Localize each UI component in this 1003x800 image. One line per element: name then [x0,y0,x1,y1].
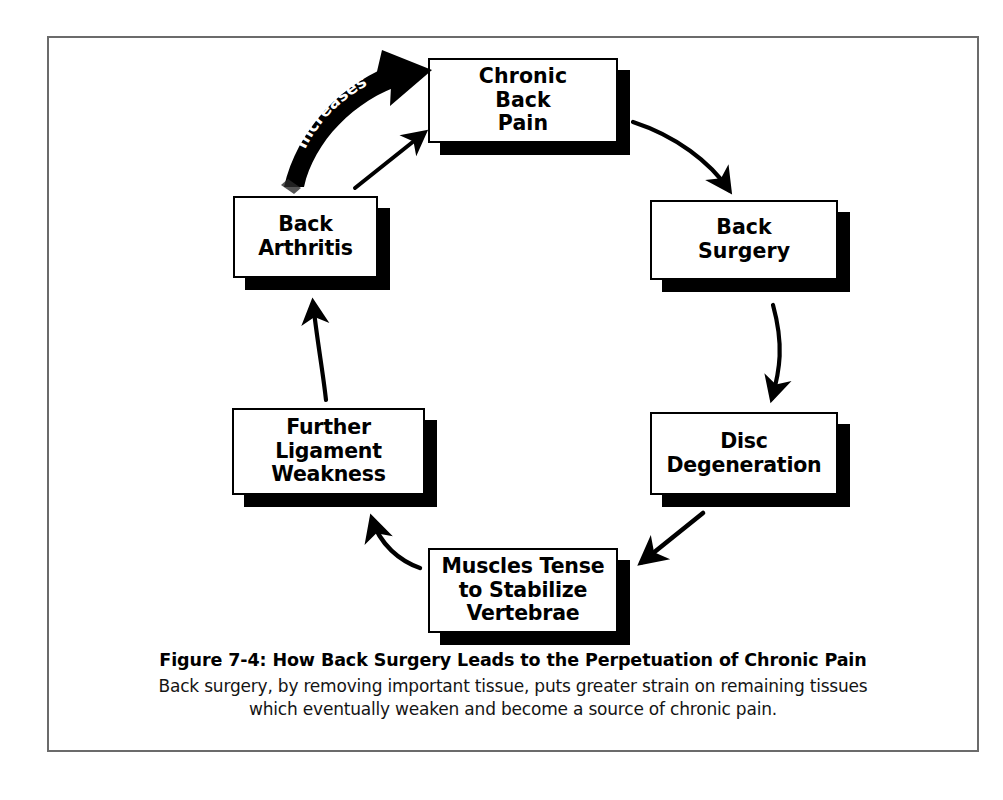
caption-body: Back surgery, by removing important tiss… [60,675,966,720]
node-back-arthritis[interactable]: Back Arthritis [233,196,378,278]
node-chronic-back-pain[interactable]: Chronic Back Pain [428,58,618,143]
caption-title: Figure 7-4: How Back Surgery Leads to th… [60,650,966,670]
node-label-further-ligament-weakness: Further Ligament Weakness [265,416,392,487]
figure-caption: Figure 7-4: How Back Surgery Leads to th… [60,650,966,720]
node-back-surgery[interactable]: Back Surgery [650,200,838,280]
node-muscles-tense[interactable]: Muscles Tense to Stabilize Vertebrae [428,548,618,633]
node-label-chronic-back-pain: Chronic Back Pain [473,65,573,136]
node-label-back-surgery: Back Surgery [692,216,796,264]
figure-root: Increases Chronic Back Pain Back Surgery… [0,0,1003,800]
node-label-muscles-tense: Muscles Tense to Stabilize Vertebrae [436,555,611,626]
node-label-disc-degeneration: Disc Degeneration [660,430,827,478]
node-further-ligament-weakness[interactable]: Further Ligament Weakness [232,408,425,495]
node-disc-degeneration[interactable]: Disc Degeneration [650,412,838,495]
node-label-back-arthritis: Back Arthritis [252,213,359,261]
